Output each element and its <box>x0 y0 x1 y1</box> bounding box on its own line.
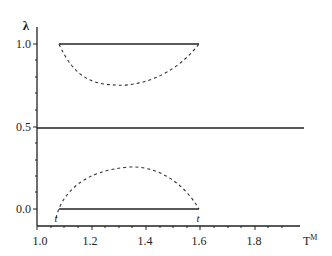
x-tick-label: 1.8 <box>247 234 262 248</box>
upper-dashed-curve <box>59 44 199 85</box>
x-tick-label: 1.2 <box>83 234 98 248</box>
y-tick-label: 0.0 <box>16 202 31 216</box>
annotation-t: t <box>196 212 200 224</box>
x-axis-label: TM <box>303 233 317 248</box>
annotation-t: t <box>54 212 58 224</box>
x-tick-label: 1.0 <box>33 234 48 248</box>
y-axis-label: λ <box>23 18 30 33</box>
chart: λ 1.0 0.5 0.0 1.0 1.2 1.4 1.6 1.8 TM t t <box>0 0 332 256</box>
y-tick-label: 1.0 <box>16 37 31 51</box>
x-tick-label: 1.6 <box>192 234 207 248</box>
y-tick-label: 0.5 <box>16 120 31 134</box>
x-tick-label: 1.4 <box>138 234 153 248</box>
lower-dashed-curve <box>56 167 199 218</box>
